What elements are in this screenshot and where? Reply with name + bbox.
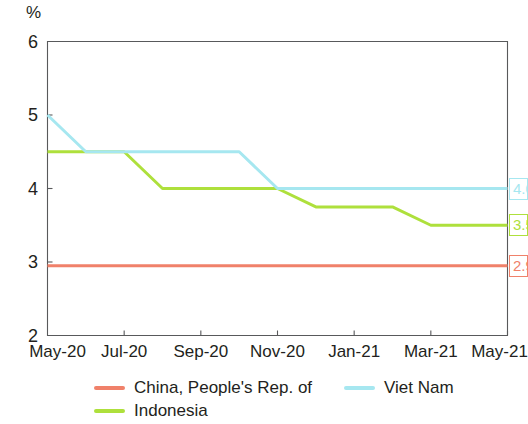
end-value-label-indonesia: 3.5	[509, 214, 528, 236]
x-axis-tick-label: Mar-21	[404, 342, 458, 362]
series-line-2	[48, 115, 508, 189]
end-value-label-viet-nam: 4.0	[509, 178, 528, 200]
end-value-label-china: 2.9	[509, 255, 528, 277]
legend-item-china: China, People's Rep. of	[94, 378, 312, 398]
legend-item-viet-nam: Viet Nam	[344, 378, 454, 398]
x-axis-tick-label: Jan-21	[328, 342, 380, 362]
legend-label: China, People's Rep. of	[134, 378, 312, 398]
legend-swatch-icon	[344, 386, 375, 390]
chart-legend: China, People's Rep. of Indonesia Viet N…	[0, 376, 528, 424]
line-chart: % 6 5 4 3 2 4.0 3.5 2.9 May-20 Jul-20 Se…	[0, 0, 528, 424]
legend-label: Indonesia	[134, 401, 208, 421]
series-lines	[48, 115, 508, 266]
legend-label: Viet Nam	[384, 378, 454, 398]
x-axis-tick-label: May-21	[471, 342, 528, 362]
legend-swatch-icon	[94, 386, 125, 390]
x-axis-tick-label: Nov-20	[250, 342, 305, 362]
legend-swatch-icon	[94, 409, 125, 413]
x-axis-tick-label: May-20	[29, 342, 86, 362]
x-axis-tick-label: Sep-20	[173, 342, 228, 362]
x-axis-tick-label: Jul-20	[101, 342, 147, 362]
legend-item-indonesia: Indonesia	[94, 401, 208, 421]
